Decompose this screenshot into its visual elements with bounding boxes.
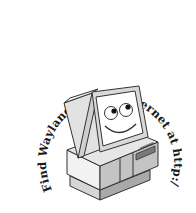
wayland-logo: Find Wayland on the Internet at http://w… [0, 0, 196, 213]
